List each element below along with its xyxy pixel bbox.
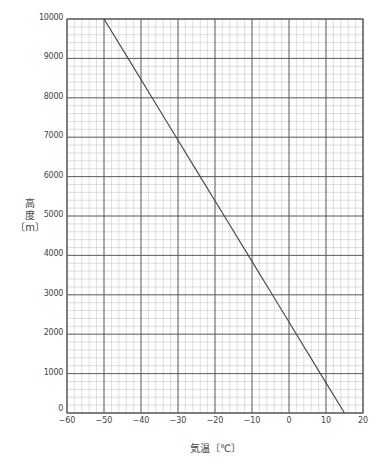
y-tick-label: 2000 (23, 328, 63, 337)
x-tick-label: 20 (351, 416, 375, 425)
x-tick-label: −40 (129, 416, 153, 425)
x-tick-label: −30 (166, 416, 190, 425)
x-tick-label: 0 (277, 416, 301, 425)
y-axis-label-line-2: 度 (20, 210, 40, 222)
x-tick-label: −50 (92, 416, 116, 425)
y-tick-label: 9000 (23, 52, 63, 61)
x-tick-label: 10 (314, 416, 338, 425)
x-tick-label: −60 (55, 416, 79, 425)
y-tick-label: 3000 (23, 289, 63, 298)
x-axis-label: 気温〔℃〕 (190, 440, 241, 455)
x-tick-label: −20 (203, 416, 227, 425)
y-tick-label: 10000 (23, 13, 63, 22)
y-tick-label: 1000 (23, 368, 63, 377)
y-tick-label: 4000 (23, 249, 63, 258)
y-tick-label: 6000 (23, 171, 63, 180)
y-tick-label: 0 (23, 404, 63, 413)
y-tick-label: 7000 (23, 131, 63, 140)
x-tick-label: −10 (240, 416, 264, 425)
y-tick-label: 8000 (23, 92, 63, 101)
y-axis-label-line-1: 高 (20, 198, 40, 210)
y-axis-label-line-3: 〔m〕 (14, 222, 46, 234)
chart-canvas (0, 0, 385, 466)
y-axis-label: 高 度 〔m〕 (20, 198, 40, 234)
